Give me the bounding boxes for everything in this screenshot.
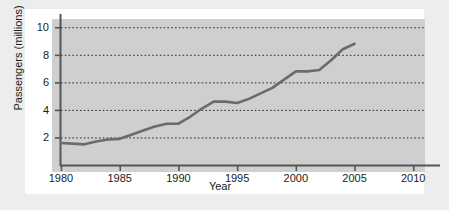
y-tick-label: 6 (27, 77, 49, 88)
chart-figure: 246810 1980198519901995200020052010 Pass… (0, 0, 449, 210)
x-tick-label: 2005 (335, 173, 375, 184)
x-tick-label: 1980 (41, 173, 81, 184)
x-tick-label: 1985 (100, 173, 140, 184)
y-tick-label: 10 (27, 22, 49, 33)
y-tick-label: 8 (27, 50, 49, 61)
x-axis-label: Year (150, 180, 290, 192)
y-axis-label: Passengers (millions) (12, 3, 24, 113)
gridlines (61, 28, 425, 138)
data-line-passengers (61, 44, 355, 145)
y-tick-label: 4 (27, 105, 49, 116)
y-tick-label: 2 (27, 132, 49, 143)
x-tick-label: 2010 (393, 173, 433, 184)
